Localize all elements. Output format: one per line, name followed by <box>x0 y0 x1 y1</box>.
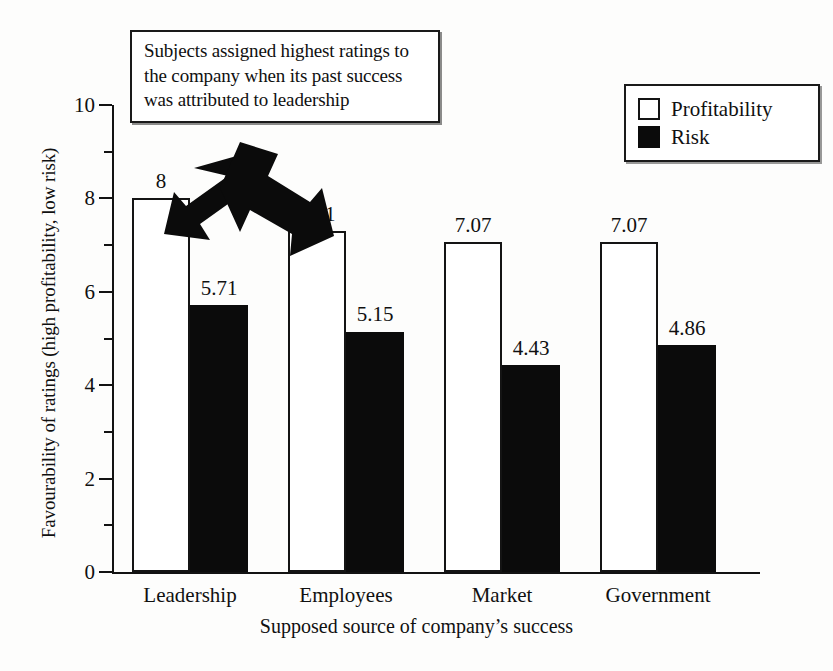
filled-square-icon <box>638 126 660 148</box>
x-axis-line <box>112 572 760 574</box>
callout-line-2: the company when its past success <box>144 64 428 89</box>
bar-employees-profitability <box>288 231 346 572</box>
y-axis-line <box>112 105 114 572</box>
bar-government-profitability <box>600 242 658 572</box>
bar-leadership-profitability <box>132 198 190 572</box>
y-tick-label: 8 <box>85 188 96 209</box>
legend-label-profitability: Profitability <box>671 99 773 120</box>
y-tick-label: 0 <box>85 562 96 583</box>
legend-item-profitability: Profitability <box>638 95 808 123</box>
bar-value-label: 4.86 <box>669 318 706 339</box>
bar-market-profitability <box>444 242 502 572</box>
block-arrow-icon <box>218 140 338 280</box>
legend-box: Profitability Risk <box>624 84 820 162</box>
bar-value-label: 7.07 <box>455 215 492 236</box>
category-label-market: Market <box>472 583 533 608</box>
callout-line-1: Subjects assigned highest ratings to <box>144 39 428 64</box>
bar-value-label: 4.43 <box>513 338 550 359</box>
y-tick-major <box>99 384 112 386</box>
bar-leadership-risk <box>190 305 248 572</box>
callout-line-3: was attributed to leadership <box>144 88 428 113</box>
y-tick-minor <box>104 338 112 340</box>
y-tick-label: 2 <box>85 468 96 489</box>
category-label-employees: Employees <box>299 583 392 608</box>
category-label-government: Government <box>606 583 711 608</box>
y-tick-major <box>99 291 112 293</box>
y-tick-minor <box>104 244 112 246</box>
y-tick-minor <box>104 151 112 153</box>
bar-market-risk <box>502 365 560 572</box>
y-tick-label: 4 <box>85 375 96 396</box>
legend-label-risk: Risk <box>671 127 710 148</box>
bar-value-label: 7.07 <box>611 215 648 236</box>
legend-item-risk: Risk <box>638 123 808 151</box>
y-axis-title: Favourability of ratings (high profitabi… <box>38 128 60 558</box>
annotation-callout-box: Subjects assigned highest ratings to the… <box>130 30 440 123</box>
category-label-leadership: Leadership <box>143 583 236 608</box>
bar-value-label: 5.15 <box>357 304 394 325</box>
y-tick-label: 10 <box>74 95 95 116</box>
hollow-square-icon <box>638 98 660 120</box>
bar-employees-risk <box>346 332 404 573</box>
y-tick-major <box>99 571 112 573</box>
y-tick-minor <box>104 524 112 526</box>
x-axis-title: Supposed source of company’s success <box>0 615 833 638</box>
chart-figure: Favourability of ratings (high profitabi… <box>0 0 833 671</box>
y-tick-major <box>99 104 112 106</box>
bar-value-label: 5.71 <box>201 278 238 299</box>
bar-government-risk <box>658 345 716 572</box>
y-tick-major <box>99 197 112 199</box>
y-tick-major <box>99 478 112 480</box>
y-tick-minor <box>104 431 112 433</box>
y-tick-label: 6 <box>85 281 96 302</box>
